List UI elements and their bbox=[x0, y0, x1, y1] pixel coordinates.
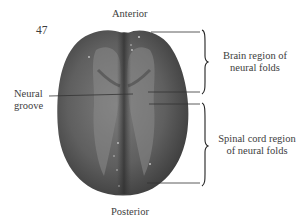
neural-groove-label-line1: Neural bbox=[14, 88, 43, 100]
embryo-figure: 47 Anterior Posterior Neural groove Brai… bbox=[0, 0, 307, 224]
spinal-region-brace bbox=[202, 103, 208, 186]
spinal-region-label-line2: of neural folds bbox=[211, 145, 303, 157]
brain-region-label-line2: neural folds bbox=[212, 62, 298, 74]
figure-number: 47 bbox=[36, 24, 48, 36]
anterior-label: Anterior bbox=[112, 8, 148, 20]
neural-groove-label-line2: groove bbox=[14, 100, 43, 112]
posterior-label: Posterior bbox=[111, 206, 149, 218]
spinal-region-label: Spinal cord region of neural folds bbox=[211, 133, 303, 157]
brain-region-label: Brain region of neural folds bbox=[212, 50, 298, 74]
neural-groove-label: Neural groove bbox=[14, 88, 43, 112]
neural-groove-stripe bbox=[117, 32, 131, 194]
brain-region-label-line1: Brain region of bbox=[212, 50, 298, 62]
spinal-region-label-line1: Spinal cord region bbox=[211, 133, 303, 145]
brain-region-brace bbox=[202, 30, 208, 94]
